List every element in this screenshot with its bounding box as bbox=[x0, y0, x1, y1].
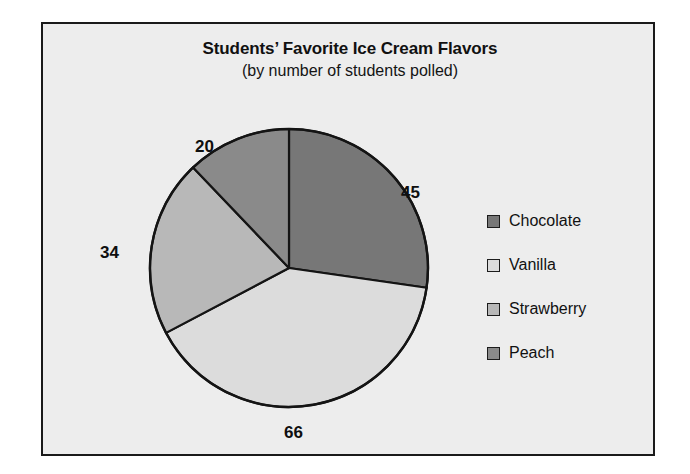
legend-swatch-icon bbox=[487, 215, 500, 228]
legend-item-vanilla: Vanilla bbox=[487, 254, 647, 276]
page-title: Students’ Favorite Ice Cream Flavors bbox=[43, 38, 657, 60]
chart-legend: Chocolate Vanilla Strawberry Peach bbox=[487, 210, 647, 364]
legend-item-label: Peach bbox=[509, 344, 554, 362]
legend-item-chocolate: Chocolate bbox=[487, 210, 647, 232]
legend-swatch-icon bbox=[487, 259, 500, 272]
pie-slice-group bbox=[150, 129, 428, 407]
legend-item-strawberry: Strawberry bbox=[487, 298, 647, 320]
pie-slice-chocolate bbox=[289, 129, 428, 288]
title-block: Students’ Favorite Ice Cream Flavors (by… bbox=[43, 38, 657, 82]
data-label-chocolate: 45 bbox=[401, 183, 420, 203]
legend-item-label: Chocolate bbox=[509, 212, 581, 230]
legend-item-peach: Peach bbox=[487, 342, 647, 364]
legend-item-label: Strawberry bbox=[509, 300, 586, 318]
legend-item-label: Vanilla bbox=[509, 256, 556, 274]
pie-chart-svg bbox=[148, 127, 430, 409]
legend-swatch-icon bbox=[487, 347, 500, 360]
chart-subtitle: (by number of students polled) bbox=[43, 60, 657, 82]
pie-chart bbox=[148, 127, 430, 409]
chart-frame: Students’ Favorite Ice Cream Flavors (by… bbox=[41, 22, 655, 456]
legend-swatch-icon bbox=[487, 303, 500, 316]
chart-figure: Students’ Favorite Ice Cream Flavors (by… bbox=[0, 0, 690, 474]
data-label-strawberry: 34 bbox=[100, 243, 119, 263]
data-label-vanilla: 66 bbox=[284, 423, 303, 443]
data-label-peach: 20 bbox=[195, 137, 214, 157]
